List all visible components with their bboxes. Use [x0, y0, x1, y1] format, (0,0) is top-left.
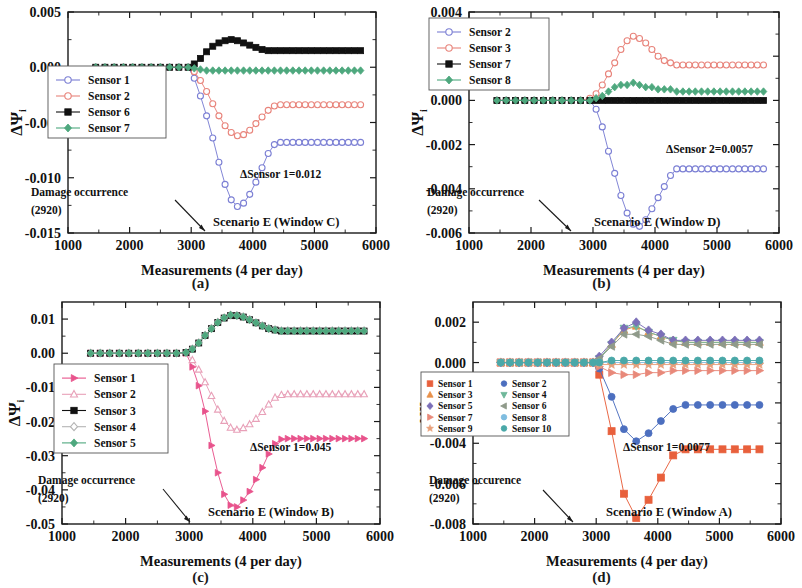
- data-point-marker: [234, 203, 240, 209]
- data-point-marker: [302, 102, 308, 108]
- data-point-marker: [624, 81, 631, 89]
- data-point-marker: [618, 81, 625, 89]
- data-point-marker: [215, 406, 222, 412]
- data-point-marker: [692, 97, 698, 103]
- data-point-marker: [228, 67, 235, 75]
- data-point-marker: [661, 86, 668, 94]
- data-point-marker: [354, 391, 361, 397]
- legend-label: Sensor 2: [512, 379, 547, 389]
- data-point-marker: [711, 97, 717, 103]
- data-point-marker: [705, 62, 711, 68]
- data-point-marker: [222, 67, 229, 75]
- data-point-marker: [645, 430, 652, 437]
- data-point-marker: [612, 60, 618, 66]
- data-point-marker: [71, 407, 77, 413]
- data-point-marker: [316, 391, 323, 397]
- x-tick-label: 2000: [112, 529, 140, 544]
- data-point-marker: [744, 446, 751, 453]
- data-point-marker: [730, 62, 736, 68]
- data-point-marker: [674, 62, 680, 68]
- data-point-marker: [308, 67, 315, 75]
- data-point-marker: [645, 357, 652, 364]
- x-tick-label: 5000: [703, 238, 731, 253]
- damage-occurrence-annotation: Damage occurrence(2920): [427, 186, 571, 231]
- data-point-marker: [729, 88, 736, 96]
- plot-svg-b: 1000200030004000500060000.0040.0020.000-…: [401, 0, 802, 294]
- data-point-marker: [358, 102, 364, 108]
- data-point-marker: [197, 78, 203, 84]
- data-point-marker: [630, 79, 637, 87]
- data-point-marker: [719, 401, 726, 408]
- data-point-marker: [612, 97, 618, 103]
- x-tick-label: 5000: [705, 529, 733, 544]
- scenario-label: Scenario E (Window B): [208, 505, 334, 519]
- data-point-marker: [736, 166, 742, 172]
- legend-label: Sensor 4: [94, 421, 136, 433]
- scenario-label: Scenario E (Window A): [606, 505, 732, 519]
- data-point-marker: [501, 426, 507, 432]
- data-point-marker: [355, 435, 361, 442]
- y-axis-label-text: ΔΨi: [408, 109, 429, 136]
- legend: Sensor 1Sensor 2Sensor 3Sensor 4Sensor 5…: [421, 372, 569, 436]
- data-point-marker: [314, 102, 320, 108]
- data-point-marker: [754, 62, 760, 68]
- data-point-marker: [277, 67, 284, 75]
- data-point-marker: [686, 62, 692, 68]
- data-point-marker: [304, 391, 311, 397]
- data-point-marker: [756, 401, 763, 408]
- data-point-marker: [259, 67, 266, 75]
- data-point-marker: [620, 357, 627, 364]
- x-tick-label: 3000: [579, 238, 607, 253]
- data-point-marker: [203, 67, 210, 75]
- data-point-marker: [717, 62, 723, 68]
- y-tick-label: -0.010: [25, 171, 61, 186]
- data-point-marker: [446, 29, 452, 35]
- figure-container: 1000200030004000500060000.0050.000-0.005…: [0, 0, 802, 588]
- data-point-marker: [321, 48, 327, 54]
- data-point-marker: [278, 139, 284, 145]
- data-point-marker: [667, 86, 674, 94]
- data-point-marker: [674, 166, 680, 172]
- data-point-marker: [296, 102, 302, 108]
- data-point-marker: [327, 67, 334, 75]
- chart-panel-c: 1000200030004000500060000.010.00-0.01-0.…: [0, 294, 401, 588]
- data-point-marker: [284, 139, 290, 145]
- data-point-marker: [621, 371, 628, 379]
- data-point-marker: [707, 357, 714, 364]
- data-point-marker: [253, 476, 259, 483]
- data-point-marker: [731, 357, 738, 364]
- data-point-marker: [361, 391, 368, 397]
- data-point-marker: [210, 43, 216, 49]
- y-tick-label: 0.000: [435, 356, 467, 371]
- data-point-marker: [748, 97, 754, 103]
- data-point-marker: [296, 67, 303, 75]
- data-point-marker: [357, 67, 364, 75]
- x-tick-label: 5000: [300, 238, 328, 253]
- data-point-marker: [744, 401, 751, 408]
- data-point-marker: [310, 391, 317, 397]
- data-point-marker: [761, 166, 767, 172]
- data-point-marker: [339, 48, 345, 54]
- data-point-marker: [210, 101, 216, 107]
- data-point-marker: [649, 206, 655, 212]
- data-point-marker: [657, 474, 664, 481]
- data-point-marker: [748, 88, 755, 96]
- y-tick-label: 0.002: [435, 315, 467, 330]
- data-point-marker: [191, 75, 197, 81]
- data-point-marker: [699, 62, 705, 68]
- y-tick-label: 0.000: [431, 93, 463, 108]
- data-point-marker: [761, 97, 767, 103]
- data-point-marker: [692, 88, 699, 96]
- data-point-marker: [342, 435, 348, 442]
- data-point-marker: [680, 88, 687, 96]
- y-tick-label: -0.002: [426, 138, 462, 153]
- data-point-marker: [553, 359, 560, 366]
- data-point-marker: [197, 55, 203, 61]
- legend-label: Sensor 1: [94, 372, 136, 384]
- data-point-marker: [506, 359, 513, 366]
- delta-sensor-annotation: ΔSensor 1=0.045: [250, 441, 332, 453]
- data-point-marker: [736, 62, 742, 68]
- data-point-marker: [278, 48, 284, 54]
- data-point-marker: [756, 446, 763, 453]
- data-point-marker: [608, 428, 615, 435]
